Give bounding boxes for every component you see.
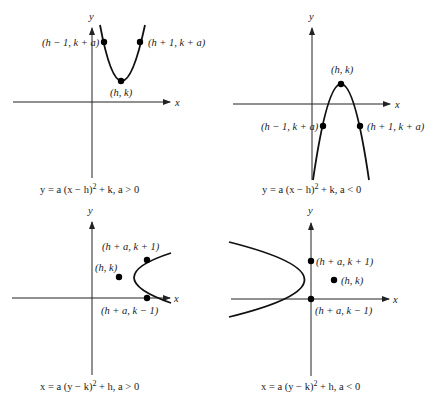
x-axis-label: x	[394, 99, 400, 110]
equation-caption: x = a (y − k)2 + h, a < 0	[261, 379, 360, 393]
parabola-curve	[134, 253, 171, 303]
panel-upward-parabola: y x (h − 1, k + a) (h + 1, k + a) (h, k)…	[13, 11, 206, 196]
panel-rightward-parabola: y x (h + a, k + 1) (h, k) (h + a, k − 1)…	[12, 205, 179, 393]
x-axis-label: x	[173, 293, 179, 304]
point-lower-label: (h + a, k − 1)	[101, 305, 159, 317]
vertex-point	[331, 277, 337, 283]
y-axis-label: y	[88, 11, 94, 22]
point-lower	[308, 296, 314, 302]
parabola-curve	[100, 25, 145, 81]
y-axis-label: y	[87, 205, 93, 216]
equation-caption: x = a (y − k)2 + h, a > 0	[40, 379, 139, 393]
panel-leftward-parabola: y x (h + a, k + 1) (h, k) (h + a, k − 1)…	[229, 205, 398, 393]
point-upper-label: (h + a, k + 1)	[316, 256, 374, 268]
point-upper-label: (h + a, k + 1)	[102, 241, 160, 253]
vertex-label: (h, k)	[95, 262, 118, 274]
point-left-label: (h − 1, k + a)	[42, 37, 100, 49]
point-left-label: (h − 1, k + a)	[261, 121, 319, 133]
panel-downward-parabola: y x (h, k) (h − 1, k + a) (h + 1, k + a)…	[233, 11, 425, 196]
point-upper	[144, 257, 150, 263]
equation-caption: y = a (x − h)2 + k, a > 0	[40, 182, 139, 196]
point-upper	[308, 258, 314, 264]
point-lower	[144, 295, 150, 301]
y-axis-label: y	[307, 205, 313, 216]
vertex-label: (h, k)	[341, 275, 364, 287]
parabola-curve	[229, 242, 305, 317]
equation-caption: y = a (x − h)2 + k, a < 0	[262, 182, 361, 196]
vertex-point	[338, 81, 344, 87]
vertex-label: (h, k)	[110, 87, 133, 99]
point-left	[101, 39, 107, 45]
point-right	[357, 123, 363, 129]
vertex-label: (h, k)	[331, 64, 354, 76]
x-axis-label: x	[392, 294, 398, 305]
point-left	[320, 123, 326, 129]
vertex-point	[116, 274, 122, 280]
x-axis-label: x	[174, 97, 180, 108]
point-lower-label: (h + a, k − 1)	[315, 305, 373, 317]
y-axis-label: y	[308, 11, 314, 22]
point-right	[137, 39, 143, 45]
point-right-label: (h + 1, k + a)	[367, 121, 425, 133]
vertex-point	[118, 78, 124, 84]
parabola-diagram: y x (h − 1, k + a) (h + 1, k + a) (h, k)…	[0, 0, 431, 403]
parabola-curve	[313, 84, 369, 180]
point-right-label: (h + 1, k + a)	[148, 37, 206, 49]
